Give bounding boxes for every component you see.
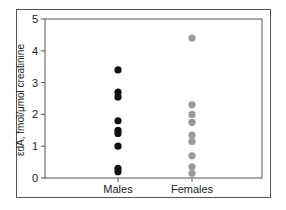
scatter-chart: 012345 MalesFemales εdA, fmol/μmol creat…: [0, 0, 286, 210]
data-point: [114, 66, 121, 73]
x-category-label: Males: [103, 183, 133, 195]
data-point: [188, 101, 195, 108]
y-tick-label: 1: [32, 140, 38, 152]
y-tick-label: 4: [32, 45, 38, 57]
data-point: [188, 34, 195, 41]
y-tick-label: 5: [32, 13, 38, 25]
data-point: [188, 152, 195, 159]
data-point: [114, 168, 121, 175]
y-axis-title: εdA, fmol/μmol creatinine: [15, 44, 26, 156]
data-point: [114, 117, 121, 124]
data-points: [114, 34, 195, 176]
data-point: [188, 170, 195, 177]
data-point: [188, 163, 195, 170]
data-point: [114, 93, 121, 100]
data-point: [114, 130, 121, 137]
data-point: [188, 119, 195, 126]
data-point: [188, 131, 195, 138]
plot-area-border: [45, 19, 262, 178]
y-tick-label: 2: [32, 108, 38, 120]
data-point: [188, 138, 195, 145]
data-point: [188, 111, 195, 118]
x-category-label: Females: [171, 183, 214, 195]
y-axis-ticks: 012345: [32, 13, 45, 184]
y-tick-label: 3: [32, 77, 38, 89]
data-point: [114, 143, 121, 150]
plot-axes: [45, 19, 262, 178]
x-axis-categories: MalesFemales: [103, 178, 213, 195]
y-tick-label: 0: [32, 172, 38, 184]
